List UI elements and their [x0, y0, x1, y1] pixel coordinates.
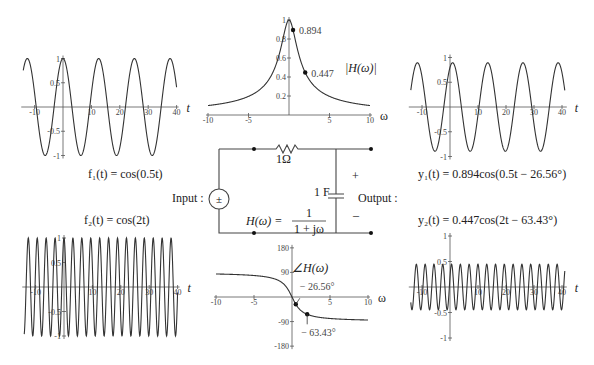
- y-tick-label: 0.5: [437, 78, 447, 87]
- node-dot: [252, 231, 256, 235]
- magnitude-title: |H(ω)|: [345, 61, 377, 75]
- y2-label: y₂(t) = 0.447cos(2t − 63.43°): [418, 213, 557, 227]
- resistor-icon: [253, 145, 371, 153]
- marked-point: [303, 70, 307, 74]
- capacitor-label: 1 F: [314, 185, 330, 199]
- y-tick-label: 1: [443, 54, 447, 63]
- y-tick-label: 0.8: [276, 35, 286, 44]
- y-tick-label: -90: [278, 318, 289, 327]
- x-tick-label: 30: [144, 108, 152, 117]
- f2-label: f₂(t) = cos(2t): [84, 213, 150, 227]
- x-tick-label: -10: [211, 298, 222, 307]
- capacitor-icon: [328, 194, 344, 198]
- y-tick-label: 0.2: [276, 92, 286, 101]
- x-axis-label: t: [187, 101, 191, 115]
- transfer-function-lhs: H(ω) =: [245, 214, 282, 228]
- x-axis-label: t: [575, 281, 579, 295]
- input-label: Input :: [172, 191, 204, 205]
- x-tick-label: 40: [558, 108, 566, 117]
- x-axis-label: ω: [380, 109, 388, 123]
- plot-y1: -101020304010.5-0.5-1t: [409, 54, 579, 162]
- plot-y2: -101020304010.5-0.5-1t: [409, 232, 579, 343]
- node-dot: [369, 231, 373, 235]
- y-tick-label: -1: [440, 334, 447, 343]
- x-tick-label: 10: [364, 298, 372, 307]
- y-tick-label: 180: [277, 244, 289, 253]
- x-tick-label: -5: [245, 116, 252, 125]
- plot-f2: -101020304010.5-0.5-1t: [22, 234, 191, 341]
- point-label: 0.447: [311, 68, 334, 79]
- point-label: − 26.56°: [300, 281, 335, 292]
- y-tick-label: -0.5: [47, 127, 60, 136]
- marked-point: [291, 28, 295, 32]
- x-tick-label: 5: [328, 298, 332, 307]
- x-tick-label: 10: [88, 288, 96, 297]
- plot-f1: -101020304010.5-0.5-1t: [21, 55, 190, 161]
- y-tick-label: -0.5: [434, 309, 447, 318]
- x-tick-label: 40: [173, 108, 181, 117]
- y-tick-label: -1: [53, 152, 60, 161]
- x-tick-label: 20: [502, 288, 510, 297]
- phase-title: ∠H(ω): [292, 261, 328, 275]
- rc-circuit: ± 1Ω 1 F Input : Output : + – H(ω) = 1 1…: [172, 145, 398, 236]
- x-axis-label: t: [188, 281, 192, 295]
- y-tick-label: 0.5: [50, 79, 60, 88]
- output-label: Output :: [358, 191, 398, 205]
- point-label: − 63.43°: [301, 327, 336, 338]
- output-plus: +: [352, 169, 359, 183]
- x-tick-label: -5: [251, 298, 258, 307]
- y-tick-label: 0.4: [276, 73, 286, 82]
- y1-label: y₁(t) = 0.894cos(0.5t − 26.56°): [418, 167, 566, 181]
- plot-phase-response: -10-551018090-90-180ω− 26.56°− 63.43°: [211, 244, 386, 351]
- y-tick-label: 1: [57, 234, 61, 243]
- x-axis-label: ω: [378, 291, 386, 305]
- x-tick-label: -10: [203, 116, 214, 125]
- x-tick-label: 20: [502, 108, 510, 117]
- transfer-function-numerator: 1: [306, 206, 312, 220]
- y-tick-label: 1: [56, 55, 60, 64]
- transfer-function-denominator: 1 + jω: [294, 222, 324, 236]
- y-tick-label: 1: [443, 232, 447, 241]
- x-tick-label: 30: [530, 108, 538, 117]
- x-axis-label: t: [575, 101, 579, 115]
- y-tick-label: -0.5: [48, 308, 61, 317]
- node-dot: [252, 147, 256, 151]
- x-tick-label: -10: [29, 108, 40, 117]
- source-polarity: ±: [216, 193, 222, 205]
- y-tick-label: -180: [274, 342, 289, 351]
- node-dot: [369, 147, 373, 151]
- y-tick-label: 90: [281, 268, 289, 277]
- x-tick-label: 10: [366, 116, 374, 125]
- y-tick-label: 1: [282, 16, 286, 25]
- point-label: 0.894: [299, 25, 322, 36]
- y-tick-label: -1: [440, 153, 447, 162]
- f1-label: f₁(t) = cos(0.5t): [88, 167, 163, 181]
- x-tick-label: -10: [417, 108, 428, 117]
- resistor-label: 1Ω: [276, 152, 291, 166]
- x-tick-label: 5: [328, 116, 332, 125]
- x-tick-label: 20: [116, 108, 124, 117]
- output-minus: –: [352, 208, 360, 222]
